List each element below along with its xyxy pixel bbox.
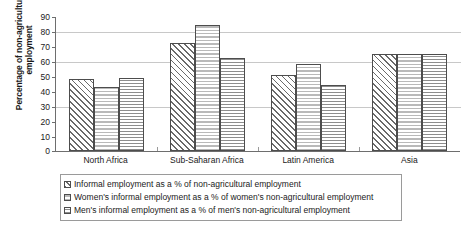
bar-latin-america-informal[interactable] [271, 75, 296, 152]
bar-latin-america-women[interactable] [296, 64, 321, 151]
legend-swatch-men-icon [64, 207, 71, 214]
y-tick-label-70: 70 [30, 43, 50, 51]
y-tick-label-50: 50 [30, 73, 50, 81]
y-axis-title-line-1: Percentage of non-agricultural [14, 0, 24, 120]
bar-group-north-africa [56, 17, 157, 151]
chart-figure: Percentage of non-agricultural employmen… [0, 0, 473, 235]
y-tick-label-10: 10 [30, 133, 50, 141]
bar-north-africa-men[interactable] [119, 78, 144, 152]
legend-label-women: Women's informal employment as a % of wo… [74, 193, 373, 202]
legend-label-informal: Informal employment as a % of non-agricu… [74, 180, 301, 189]
y-tick-0 [52, 151, 56, 152]
bar-sub-saharan-africa-women[interactable] [195, 25, 220, 151]
x-axis-labels: North Africa Sub-Saharan Africa Latin Am… [55, 155, 460, 165]
legend-swatch-women-icon [64, 194, 71, 201]
bar-series-container [56, 17, 460, 151]
bar-asia-women[interactable] [397, 54, 422, 152]
legend-item-women[interactable]: Women's informal employment as a % of wo… [64, 191, 397, 204]
x-label-asia: Asia [359, 155, 460, 165]
bar-north-africa-informal[interactable] [69, 79, 94, 151]
bar-latin-america-men[interactable] [321, 85, 346, 151]
y-tick-label-80: 80 [30, 28, 50, 36]
bar-sub-saharan-africa-men[interactable] [220, 58, 245, 151]
legend-item-informal[interactable]: Informal employment as a % of non-agricu… [64, 178, 397, 191]
x-label-sub-saharan-africa: Sub-Saharan Africa [156, 155, 257, 165]
y-tick-label-30: 30 [30, 103, 50, 111]
y-tick-label-60: 60 [30, 58, 50, 66]
legend-swatch-informal-icon [64, 181, 71, 188]
bar-asia-men[interactable] [422, 54, 447, 152]
bar-sub-saharan-africa-informal[interactable] [170, 43, 195, 151]
y-tick-label-20: 20 [30, 118, 50, 126]
chart-legend: Informal employment as a % of non-agricu… [60, 174, 402, 221]
legend-label-men: Men's informal employment as a % of men'… [74, 206, 350, 215]
legend-item-men[interactable]: Men's informal employment as a % of men'… [64, 204, 397, 217]
bar-group-sub-saharan-africa [157, 17, 258, 151]
y-tick-label-90: 90 [30, 13, 50, 21]
y-tick-label-0: 0 [30, 147, 50, 155]
x-label-latin-america: Latin America [258, 155, 359, 165]
bar-group-latin-america [258, 17, 359, 151]
y-tick-label-40: 40 [30, 88, 50, 96]
bar-asia-informal[interactable] [372, 54, 397, 152]
plot-area: 90 80 70 60 50 40 30 20 10 0 [55, 17, 460, 152]
x-label-north-africa: North Africa [55, 155, 156, 165]
bar-north-africa-women[interactable] [94, 87, 119, 152]
bar-group-asia [359, 17, 460, 151]
